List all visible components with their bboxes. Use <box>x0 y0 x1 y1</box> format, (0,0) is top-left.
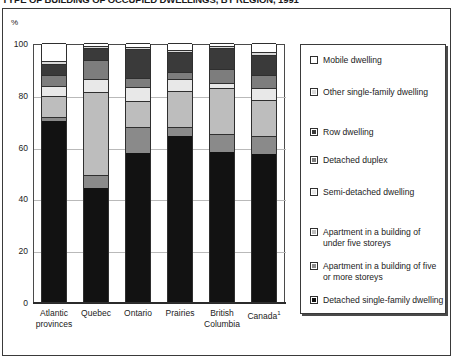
legend-swatch-apartment-under-five-storeys <box>310 228 318 236</box>
x-axis-category-labels: Atlantic provincesQuebecOntarioPrairiesB… <box>33 308 285 348</box>
bar-segment[interactable] <box>126 101 150 127</box>
bar-stack[interactable] <box>209 44 235 303</box>
bar-segment[interactable] <box>168 136 192 302</box>
bar-segment[interactable] <box>84 43 108 46</box>
bar-segment[interactable] <box>210 88 234 133</box>
bar-column[interactable] <box>83 44 109 303</box>
legend-swatch-semi-detached-dwelling <box>310 188 318 196</box>
legend-item-label: Detached single-family dwelling <box>323 295 443 306</box>
bar-stack[interactable] <box>251 44 277 303</box>
bar-segment[interactable] <box>126 47 150 50</box>
bar-segment[interactable] <box>210 43 234 46</box>
legend-item[interactable]: Semi-detached dwelling <box>310 187 444 198</box>
legend-item-label: Mobile dwelling <box>323 55 382 66</box>
bar-stack[interactable] <box>83 44 109 303</box>
figure-root: TYPE OF BUILDING OF OCCUPIED DWELLINGS, … <box>0 0 454 358</box>
bar-segment[interactable] <box>42 64 66 76</box>
bar-segment[interactable] <box>126 127 150 153</box>
bar-segment[interactable] <box>42 43 66 61</box>
bar-segment[interactable] <box>84 60 108 79</box>
bar-stack[interactable] <box>167 44 193 303</box>
bar-column[interactable] <box>125 44 151 303</box>
bar-segment[interactable] <box>126 43 150 47</box>
bar-stack[interactable] <box>41 44 67 303</box>
bar-stack[interactable] <box>125 44 151 303</box>
legend-item[interactable]: Apartment in a building of under five st… <box>310 227 444 248</box>
legend-item-label: Apartment in a building of five or more … <box>323 261 444 282</box>
legend-swatch-row-dwelling <box>310 128 318 136</box>
bar-segment[interactable] <box>168 52 192 71</box>
bar-segment[interactable] <box>84 175 108 188</box>
bar-segment[interactable] <box>168 127 192 136</box>
bar-segment[interactable] <box>42 117 66 121</box>
y-axis-tick-label: 0 <box>2 298 28 308</box>
y-axis-tick-label: 80 <box>2 91 28 101</box>
legend-swatch-mobile-dwelling <box>310 56 318 64</box>
legend-item[interactable]: Other single-family dwelling <box>310 87 444 98</box>
legend-item-label: Other single-family dwelling <box>323 87 428 98</box>
bar-segment[interactable] <box>42 75 66 85</box>
legend-item[interactable]: Apartment in a building of five or more … <box>310 261 444 282</box>
x-axis-category-label: Canada1 <box>237 308 291 321</box>
bar-segment[interactable] <box>42 61 66 64</box>
bar-segment[interactable] <box>252 52 276 55</box>
bar-segment[interactable] <box>252 43 276 52</box>
bar-segment[interactable] <box>210 83 234 88</box>
bar-segment[interactable] <box>126 49 150 77</box>
legend-swatch-other-single-family-dwelling <box>310 88 318 96</box>
bar-segment[interactable] <box>84 48 108 60</box>
legend-swatch-detached-single-family-dwelling <box>310 296 318 304</box>
bar-column[interactable] <box>251 44 277 303</box>
bar-segment[interactable] <box>168 43 192 49</box>
bar-segment[interactable] <box>126 87 150 101</box>
figure-title: TYPE OF BUILDING OF OCCUPIED DWELLINGS, … <box>2 0 452 6</box>
bar-segment[interactable] <box>252 75 276 88</box>
bar-segment[interactable] <box>252 154 276 302</box>
legend-item-label: Apartment in a building of under five st… <box>323 227 444 248</box>
legend-item[interactable]: Detached duplex <box>310 155 444 166</box>
legend-swatch-detached-duplex <box>310 156 318 164</box>
bar-segment[interactable] <box>210 69 234 83</box>
chart-legend: Mobile dwellingOther single-family dwell… <box>300 44 446 314</box>
bar-segment[interactable] <box>126 153 150 302</box>
legend-item-label: Detached duplex <box>323 155 388 166</box>
bar-segment[interactable] <box>252 55 276 76</box>
bar-segment[interactable] <box>210 46 234 49</box>
bar-segment[interactable] <box>168 50 192 53</box>
bar-column[interactable] <box>209 44 235 303</box>
y-axis-tick-label: 40 <box>2 194 28 204</box>
bar-segment[interactable] <box>42 121 66 302</box>
bar-segment[interactable] <box>252 100 276 136</box>
legend-item-label: Row dwelling <box>323 127 374 138</box>
bar-segment[interactable] <box>210 48 234 69</box>
legend-item[interactable]: Row dwelling <box>310 127 444 138</box>
bar-segment[interactable] <box>84 188 108 302</box>
bar-series-group <box>33 44 285 303</box>
y-axis-tick-label: 100 <box>2 39 28 49</box>
bar-segment[interactable] <box>252 136 276 154</box>
bar-segment[interactable] <box>210 134 234 152</box>
bar-segment[interactable] <box>42 96 66 117</box>
bar-segment[interactable] <box>210 152 234 302</box>
y-axis-tick-label: 20 <box>2 246 28 256</box>
bar-column[interactable] <box>41 44 67 303</box>
bar-segment[interactable] <box>252 88 276 100</box>
bar-segment[interactable] <box>84 79 108 92</box>
bar-segment[interactable] <box>168 79 192 91</box>
legend-item[interactable]: Detached single-family dwelling <box>310 295 444 306</box>
legend-item-label: Semi-detached dwelling <box>323 187 414 198</box>
y-axis-tick-label: 60 <box>2 143 28 153</box>
bar-column[interactable] <box>167 44 193 303</box>
y-axis-unit-label: % <box>11 18 18 27</box>
legend-swatch-apartment-five-or-more-storeys <box>310 262 318 270</box>
bar-segment[interactable] <box>168 72 192 80</box>
bar-segment[interactable] <box>126 78 150 87</box>
bar-segment[interactable] <box>42 86 66 96</box>
bar-segment[interactable] <box>168 91 192 127</box>
legend-item[interactable]: Mobile dwelling <box>310 55 444 66</box>
bar-segment[interactable] <box>84 92 108 175</box>
bar-segment[interactable] <box>84 46 108 49</box>
